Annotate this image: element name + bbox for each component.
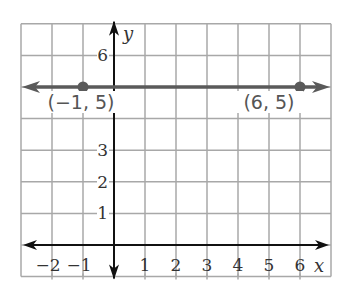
x-tick-label: 1 — [140, 255, 151, 275]
x-tick-label: 4 — [233, 255, 244, 275]
y-tick-label: 2 — [97, 172, 108, 192]
point-label: (−1, 5) — [47, 91, 114, 113]
x-tick-label: 6 — [295, 255, 306, 275]
data-point — [295, 82, 306, 93]
x-tick-label: −1 — [66, 255, 91, 275]
coordinate-plane: yx −2−11234561236 (−1, 5)(6, 5) — [0, 0, 349, 299]
x-axis-label: x — [314, 255, 324, 276]
x-tick-label: 3 — [202, 255, 213, 275]
y-tick-label: 6 — [97, 45, 108, 65]
point-label: (6, 5) — [243, 91, 294, 113]
x-tick-label: 2 — [171, 255, 182, 275]
y-tick-label: 3 — [97, 140, 108, 160]
point-labels: (−1, 5)(6, 5) — [47, 91, 303, 113]
y-tick-label: 1 — [97, 203, 108, 223]
x-tick-label: −2 — [35, 255, 60, 275]
x-tick-label: 5 — [264, 255, 275, 275]
y-axis-label: y — [122, 23, 134, 44]
grid-lines — [21, 24, 331, 277]
